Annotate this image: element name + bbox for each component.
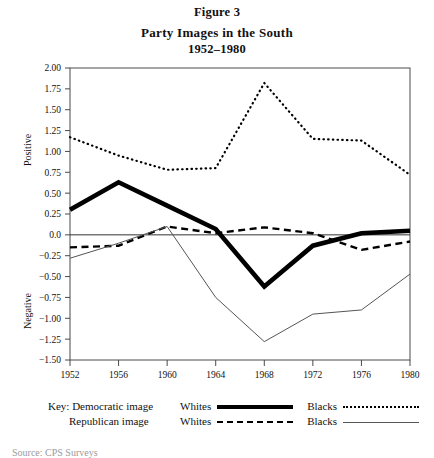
legend-row-democratic: Key: Democratic image Whites Blacks: [48, 399, 428, 414]
legend-democratic-whites: Whites: [180, 399, 293, 414]
y-axis-tick-label: −0.50: [39, 272, 61, 282]
chart-legend: Key: Democratic image Whites Blacks Repu…: [48, 399, 428, 429]
y-axis-tick-label: 1.00: [44, 147, 61, 157]
x-axis-tick-label: 1980: [401, 370, 420, 380]
y-axis-tick-label: 0.0: [49, 230, 61, 240]
legend-republican-blacks-label: Blacks: [307, 414, 337, 429]
y-axis-tick-label: −1.25: [39, 335, 61, 345]
y-axis-tick-label: −0.75: [39, 293, 61, 303]
legend-swatch-dashed: [217, 417, 293, 427]
legend-republican-whites-label: Whites: [180, 414, 211, 429]
legend-swatch-thick-solid: [217, 402, 293, 412]
y-axis-tick-label: 0.25: [44, 209, 61, 219]
y-axis-tick-label: 0.75: [44, 168, 61, 178]
legend-swatch-dotted: [343, 402, 419, 412]
x-axis-tick-label: 1968: [255, 370, 274, 380]
y-axis-tick-label: 1.25: [44, 126, 61, 136]
legend-democratic-blacks-label: Blacks: [307, 399, 337, 414]
legend-democratic-label: Key: Democratic image: [48, 399, 180, 414]
source-note: Source: CPS Surveys: [12, 447, 98, 458]
y-axis-tick-label: −0.25: [39, 251, 61, 261]
legend-swatch-thin-solid: [343, 417, 419, 427]
x-axis-tick-label: 1964: [206, 370, 225, 380]
y-axis-tick-label: 0.50: [44, 189, 61, 199]
legend-key-word: Key:: [48, 400, 69, 412]
series-line: [70, 227, 410, 250]
legend-republican-party: Republican image: [48, 414, 180, 429]
legend-democratic-blacks: Blacks: [307, 399, 419, 414]
legend-democratic-party: Democratic image: [72, 400, 153, 412]
y-axis-tick-label: 1.50: [44, 105, 61, 115]
plot-frame: [70, 68, 410, 360]
chart-area: 2.001.751.501.251.000.750.500.250.0−0.25…: [0, 0, 434, 400]
x-axis-tick-label: 1956: [109, 370, 128, 380]
x-axis-tick-label: 1952: [61, 370, 80, 380]
y-axis-tick-label: −1.00: [39, 314, 61, 324]
legend-republican-whites: Whites: [180, 414, 293, 429]
legend-row-republican: Republican image Whites Blacks: [48, 414, 428, 429]
series-line: [70, 83, 410, 175]
x-axis-tick-label: 1972: [303, 370, 322, 380]
y-axis-tick-label: −1.50: [39, 355, 61, 365]
party-images-line-chart: 2.001.751.501.251.000.750.500.250.0−0.25…: [0, 0, 434, 400]
y-axis-negative-label: Negative: [22, 292, 33, 329]
y-axis-tick-label: 2.00: [44, 63, 61, 73]
x-axis-tick-label: 1960: [158, 370, 177, 380]
legend-republican-blacks: Blacks: [307, 414, 419, 429]
legend-democratic-whites-label: Whites: [180, 399, 211, 414]
y-axis-tick-label: 1.75: [44, 84, 61, 94]
y-axis-positive-label: Positive: [22, 133, 33, 166]
x-axis-tick-label: 1976: [352, 370, 371, 380]
